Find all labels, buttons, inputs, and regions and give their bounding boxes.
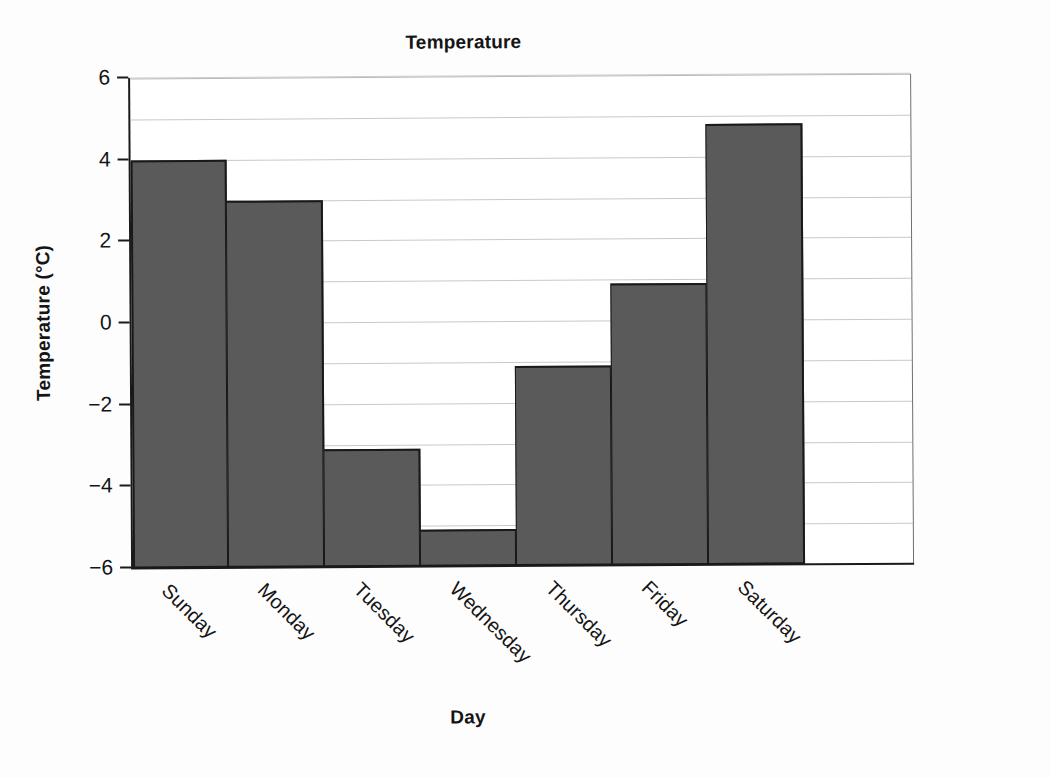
x-axis-tick-label: Tuesday: [349, 578, 419, 648]
x-axis-tick-cell: Sunday: [131, 573, 228, 704]
y-axis-title: Temperature (°C): [32, 173, 56, 473]
chart-canvas: Temperature Temperature (°C) 6420−2−4−6 …: [0, 0, 1051, 778]
bar-cell: [322, 77, 421, 568]
y-axis-title-wrapper: Temperature (°C): [50, 78, 54, 568]
y-axis-tick: [117, 76, 128, 78]
bar: [226, 200, 325, 568]
bar: [610, 283, 709, 565]
chart-title: Temperature: [0, 28, 1049, 56]
x-axis-tick-cell: Monday: [227, 572, 324, 703]
bar: [515, 365, 613, 566]
x-axis-tick-cell: Wednesday: [419, 571, 516, 702]
x-axis-tick-label: Saturday: [733, 576, 806, 649]
bar: [131, 159, 229, 568]
y-axis-tick-label: 0: [100, 311, 112, 335]
bar: [420, 529, 517, 566]
bar-cell: [706, 74, 805, 565]
bar-cell: [226, 77, 325, 568]
x-axis-tick-cell: Thursday: [515, 570, 612, 701]
y-axis-tick-label: 6: [98, 66, 110, 90]
bar: [323, 448, 421, 567]
x-axis-title: Day: [132, 704, 804, 730]
y-axis-tick: [119, 403, 130, 405]
y-axis-tick-label: −4: [89, 474, 113, 498]
y-axis-tick: [118, 240, 129, 242]
y-axis-tick-label: −2: [88, 392, 112, 416]
bar-series: [130, 74, 805, 568]
x-axis-tick-cell: Tuesday: [323, 572, 420, 703]
bar-cell: [610, 75, 709, 566]
x-axis-ticks: SundayMondayTuesdayWednesdayThursdayFrid…: [131, 569, 804, 703]
x-axis-tick-label: Thursday: [541, 577, 616, 652]
x-axis-tick-cell: Friday: [611, 570, 708, 701]
y-axis-tick: [120, 485, 131, 487]
y-axis-tick-label: 2: [99, 229, 111, 253]
x-axis-tick-label: Sunday: [157, 579, 221, 643]
y-axis-tick-label: 4: [99, 147, 111, 171]
x-axis-tick-label: Friday: [637, 576, 693, 631]
bar-cell: [514, 75, 613, 566]
y-axis-tick: [120, 566, 131, 568]
y-axis-tick: [119, 321, 130, 323]
y-axis-tick-label: −6: [89, 556, 113, 580]
bar-cell: [130, 78, 229, 569]
y-axis-tick: [118, 158, 129, 160]
x-axis-tick-cell: Saturday: [707, 569, 804, 700]
plot-area: [128, 73, 913, 569]
chart-title-text: Temperature: [405, 31, 521, 54]
bar: [705, 123, 805, 565]
bar-cell: [418, 76, 517, 567]
x-axis-tick-label: Monday: [253, 579, 320, 645]
